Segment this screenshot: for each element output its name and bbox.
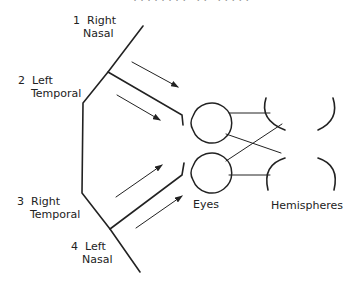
diagram-graphics <box>0 0 352 291</box>
left-hemisphere-upper-arc <box>265 98 285 130</box>
lower-eye-icon <box>191 153 232 193</box>
visual-field-diagram: ........ .. ..... <box>0 0 352 291</box>
label-region-2: 2 Left Temporal <box>18 74 81 100</box>
arrow-3-icon <box>116 165 162 197</box>
right-hemisphere-upper-arc <box>318 98 335 130</box>
right-hemisphere-lower-arc <box>318 158 335 190</box>
arrow-1-icon <box>132 62 178 87</box>
left-hemisphere-lower-arc <box>267 158 285 190</box>
label-hemispheres: Hemispheres <box>271 199 343 212</box>
lower-inner-boundary <box>110 163 184 229</box>
label-region-4: 4 Left Nasal <box>71 240 113 266</box>
upper-eye-icon <box>191 103 232 143</box>
upper-inner-boundary <box>108 72 183 125</box>
label-region-1: 1 Right Nasal <box>73 14 116 40</box>
label-eyes: Eyes <box>193 198 219 211</box>
label-region-3: 3 Right Temporal <box>17 195 80 221</box>
arrow-4-icon <box>136 196 182 228</box>
